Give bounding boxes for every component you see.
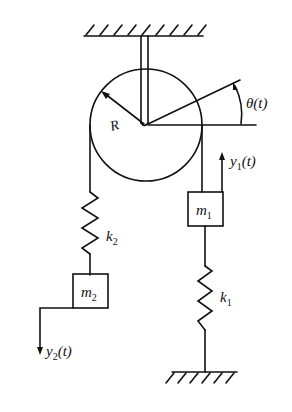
y2-label: y2(t) [44, 343, 72, 362]
ground-support [166, 372, 237, 383]
m2-label: m2 [81, 284, 97, 303]
pulley-mass-spring-diagram: R θ(t) k2 m2 m1 k1 y1(t) y2(t) [0, 0, 292, 412]
support-rod [141, 36, 148, 126]
y1-label: y1(t) [228, 153, 256, 172]
spring-k1 [198, 266, 212, 330]
k1-label: k1 [220, 289, 232, 308]
ceiling-support [84, 25, 206, 36]
k2-label: k2 [106, 228, 118, 247]
y1-displacement-arrow [219, 152, 225, 192]
spring-k2 [82, 192, 98, 254]
angle-label: θ(t) [246, 95, 268, 112]
m1-label: m1 [196, 202, 212, 221]
radius-label: R [107, 117, 121, 134]
